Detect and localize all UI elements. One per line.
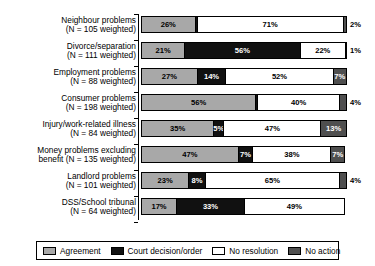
segment-value-label: 71% <box>263 21 278 29</box>
legend-label: No resolution <box>229 246 278 256</box>
bar-segment-noaction[interactable]: 1% <box>345 42 347 59</box>
segment-value-label: 56% <box>191 99 206 107</box>
bar-segment-none[interactable]: 65% <box>205 172 339 189</box>
category-label-line2: benefit (N = 135 weighted) <box>38 155 136 164</box>
stacked-bar[interactable]: 17%33%49% <box>141 198 347 215</box>
bar-segment-none[interactable]: 22% <box>300 42 345 59</box>
bar-segment-court[interactable]: 7% <box>238 146 252 163</box>
bar-segment-agreement[interactable]: 47% <box>141 146 238 163</box>
segment-value-label: 47% <box>182 151 197 159</box>
bar-segment-court[interactable]: 14% <box>197 68 226 85</box>
bar-segment-court[interactable]: 5% <box>213 120 223 137</box>
segment-value-label: 21% <box>156 47 171 55</box>
bar-segment-agreement[interactable]: 17% <box>141 198 176 215</box>
segment-value-label: 27% <box>162 73 177 81</box>
bar-segment-noaction[interactable]: 4% <box>339 94 347 111</box>
bar-row: Employment problems(N = 88 weighted)27%1… <box>0 64 375 90</box>
segment-value-label: 26% <box>161 21 176 29</box>
stacked-bar[interactable]: 21%56%22%1% <box>141 42 347 59</box>
segment-value-label: 35% <box>170 125 185 133</box>
segment-value-label: 38% <box>284 151 299 159</box>
segment-value-label: 49% <box>287 203 302 211</box>
bar-row: Injury/work-related illness(N = 84 weigh… <box>0 116 375 142</box>
legend-swatch-court-icon <box>111 247 124 255</box>
segment-value-label: 7% <box>334 73 345 81</box>
bar-segment-court[interactable]: 8% <box>188 172 204 189</box>
legend-swatch-noaction-icon <box>288 247 301 255</box>
category-label-line2: (N = 198 weighted) <box>66 103 136 112</box>
bar-segment-noaction[interactable]: 4% <box>339 172 347 189</box>
category-label: Landlord problems(N = 101 weighted) <box>4 168 136 194</box>
legend-label: No action <box>305 246 340 256</box>
bar-segment-agreement[interactable]: 26% <box>141 16 195 33</box>
axis-tick <box>134 222 138 223</box>
stacked-bar[interactable]: 23%8%65%4% <box>141 172 347 189</box>
stacked-bar[interactable]: 56%1%40%4% <box>141 94 347 111</box>
stacked-bar[interactable]: 26%1%71%2% <box>141 16 347 33</box>
bar-segment-agreement[interactable]: 35% <box>141 120 213 137</box>
segment-value-label: 13% <box>326 125 341 133</box>
bar-row: Divorce/separation(N = 111 weighted)21%5… <box>0 38 375 64</box>
bar-segment-none[interactable]: 47% <box>223 120 320 137</box>
segment-value-label: 8% <box>192 177 203 185</box>
bar-segment-none[interactable]: 49% <box>244 198 345 215</box>
bar-segment-none[interactable]: 38% <box>252 146 330 163</box>
bar-segment-none[interactable]: 52% <box>225 68 332 85</box>
segment-value-label: 14% <box>204 73 219 81</box>
segment-value-label: 23% <box>158 177 173 185</box>
legend-swatch-agreement-icon <box>43 247 56 255</box>
bar-segment-noaction[interactable]: 7% <box>330 146 344 163</box>
bar-segment-agreement[interactable]: 21% <box>141 42 184 59</box>
category-label-line2: (N = 64 weighted) <box>70 207 136 216</box>
category-label-line2: (N = 111 weighted) <box>67 51 136 60</box>
bar-segment-noaction[interactable]: 2% <box>343 16 347 33</box>
segment-value-label: 56% <box>235 47 250 55</box>
segment-value-label: 17% <box>151 203 166 211</box>
bar-row: Consumer problems(N = 198 weighted)56%1%… <box>0 90 375 116</box>
bar-row: Neighbour problems(N = 105 weighted)26%1… <box>0 12 375 38</box>
bar-segment-none[interactable]: 71% <box>197 16 343 33</box>
segment-value-label: 7% <box>240 151 251 159</box>
stacked-bar-chart: Neighbour problems(N = 105 weighted)26%1… <box>0 0 375 266</box>
segment-value-label: 52% <box>272 73 287 81</box>
segment-value-label: 1% <box>350 47 361 55</box>
legend-items: AgreementCourt decision/orderNo resoluti… <box>43 246 340 256</box>
bar-segment-agreement[interactable]: 56% <box>141 94 255 111</box>
segment-value-label: 40% <box>291 99 306 107</box>
bar-segment-agreement[interactable]: 23% <box>141 172 188 189</box>
legend-item-agreement[interactable]: Agreement <box>43 246 101 256</box>
category-label: Money problems excludingbenefit (N = 135… <box>4 142 136 168</box>
category-label-line2: (N = 88 weighted) <box>70 77 136 86</box>
segment-value-label: 33% <box>203 203 218 211</box>
stacked-bar[interactable]: 47%7%38%7% <box>141 146 347 163</box>
bar-segment-court[interactable]: 56% <box>184 42 299 59</box>
plot-area: Neighbour problems(N = 105 weighted)26%1… <box>0 0 375 236</box>
category-label: DSS/School tribunal(N = 64 weighted) <box>4 194 136 220</box>
category-label-line2: (N = 84 weighted) <box>70 129 136 138</box>
legend-item-court[interactable]: Court decision/order <box>111 246 203 256</box>
segment-value-label: 22% <box>315 47 330 55</box>
stacked-bar[interactable]: 35%5%47%13% <box>141 120 347 137</box>
legend-label: Court decision/order <box>128 246 203 256</box>
legend-item-noaction[interactable]: No action <box>288 246 340 256</box>
legend-item-none[interactable]: No resolution <box>212 246 278 256</box>
bar-segment-noaction[interactable]: 7% <box>333 68 347 85</box>
category-label-line2: (N = 105 weighted) <box>66 25 136 34</box>
segment-value-label: 47% <box>265 125 280 133</box>
category-label: Employment problems(N = 88 weighted) <box>4 64 136 90</box>
bar-segment-none[interactable]: 40% <box>257 94 339 111</box>
category-label: Injury/work-related illness(N = 84 weigh… <box>4 116 136 142</box>
bar-segment-agreement[interactable]: 27% <box>141 68 197 85</box>
category-label-line2: (N = 101 weighted) <box>66 181 136 190</box>
bar-row: DSS/School tribunal(N = 64 weighted)17%3… <box>0 194 375 220</box>
segment-value-label: 2% <box>350 21 361 29</box>
segment-value-label: 65% <box>265 177 280 185</box>
category-label: Consumer problems(N = 198 weighted) <box>4 90 136 116</box>
bar-row: Money problems excludingbenefit (N = 135… <box>0 142 375 168</box>
bar-segment-court[interactable]: 33% <box>176 198 244 215</box>
chart-legend: AgreementCourt decision/orderNo resoluti… <box>36 241 339 260</box>
segment-value-label: 4% <box>350 177 361 185</box>
legend-swatch-none-icon <box>212 247 225 255</box>
stacked-bar[interactable]: 27%14%52%7% <box>141 68 347 85</box>
bar-segment-noaction[interactable]: 13% <box>320 120 347 137</box>
